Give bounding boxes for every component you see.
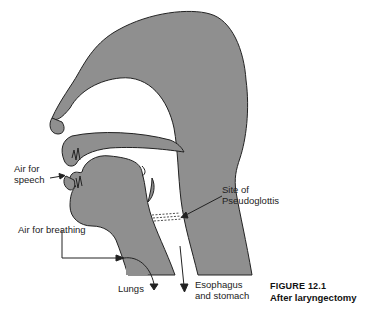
anatomy-diagram [0,0,378,316]
label-air-for-speech: Air for speech [14,163,45,185]
label-air-for-breathing: Air for breathing [18,224,86,235]
figure-caption: After laryngectomy [270,292,357,303]
label-esophagus-line2: and stomach [195,290,249,301]
label-lungs: Lungs [118,283,144,294]
epiglottis [148,178,154,202]
label-air-for-speech-line2: speech [14,174,45,185]
label-air-for-speech-line1: Air for [14,163,45,174]
label-site-line1: Site of [222,184,279,195]
label-esophagus-and-stomach: Esophagus and stomach [195,279,249,301]
pseudoglottis-dashes [152,213,182,221]
figure-number: FIGURE 12.1 [270,281,326,291]
label-site-of-pseudoglottis: Site of Pseudoglottis [222,184,279,206]
nose-tissue [50,118,64,134]
label-esophagus-line1: Esophagus [195,279,249,290]
label-site-line2: Pseudoglottis [222,195,279,206]
